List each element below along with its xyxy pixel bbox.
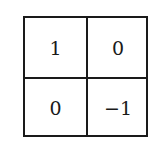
matrix-cell-r1-c0: 0 (25, 79, 88, 137)
matrix-cell-r0-c1: 0 (88, 18, 148, 79)
matrix-cell-r1-c1: −1 (88, 79, 148, 137)
matrix-cell-r0-c0: 1 (25, 18, 88, 79)
matrix-grid: 1 0 0 −1 (23, 16, 148, 137)
